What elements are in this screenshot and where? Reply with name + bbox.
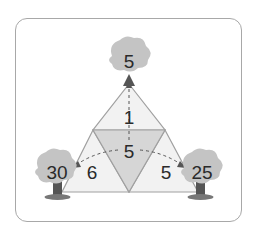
tree-left-value: 30 — [46, 162, 67, 183]
region-right-value: 5 — [161, 162, 172, 183]
tree-trunk-icon — [123, 74, 135, 86]
tree-right-value: 25 — [191, 162, 212, 183]
region-left-value: 6 — [87, 162, 98, 183]
tree-top-value: 5 — [124, 51, 135, 72]
triangle-diagram: 5 30 25 1 5 6 5 — [0, 0, 260, 240]
region-center-value: 5 — [124, 141, 135, 162]
region-top-value: 1 — [124, 107, 135, 128]
